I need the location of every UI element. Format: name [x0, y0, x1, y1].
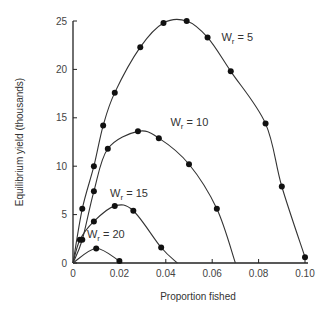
x-tick-label: 0 [70, 268, 76, 279]
data-point [186, 161, 192, 167]
series-label-wr-10: Wr = 10 [170, 116, 208, 131]
data-point [77, 237, 83, 243]
data-point [137, 44, 143, 50]
data-point [158, 245, 164, 251]
y-tick-label: 15 [56, 112, 68, 123]
y-axis-title: Equilibrium yield (thousands) [14, 78, 25, 206]
x-axis-title: Proportion fished [160, 291, 236, 302]
data-point [214, 206, 220, 212]
data-point [156, 135, 162, 141]
data-point [91, 188, 97, 194]
data-point [263, 121, 269, 127]
data-point [205, 34, 211, 40]
y-tick-label: 5 [61, 209, 67, 220]
x-tick-label: 0.08 [249, 268, 269, 279]
curve-wr-5 [73, 19, 305, 263]
x-tick-label: 0.02 [110, 268, 130, 279]
data-point [279, 184, 285, 190]
y-tick-label: 10 [56, 161, 68, 172]
data-point [93, 245, 99, 251]
data-point [116, 258, 122, 264]
data-point [112, 90, 118, 96]
data-point [91, 163, 97, 169]
data-point [79, 206, 85, 212]
data-point [302, 254, 308, 260]
x-tick-label: 0.06 [202, 268, 222, 279]
x-tick-label: 0.10 [295, 268, 315, 279]
series-label-wr-5: Wr = 5 [221, 31, 253, 46]
y-tick-label: 20 [56, 64, 68, 75]
data-point [160, 20, 166, 26]
data-point [91, 218, 97, 224]
data-point [112, 203, 118, 209]
chart-canvas: 051015202500.020.040.060.080.10 Wr = 5Wr… [0, 0, 335, 309]
data-point [184, 18, 190, 24]
data-point [100, 123, 106, 129]
series-labels: Wr = 5Wr = 10Wr = 15Wr = 20 [87, 31, 253, 243]
data-point [135, 128, 141, 134]
data-point [228, 68, 234, 74]
series-label-wr-20: Wr = 20 [87, 228, 125, 243]
x-tick-label: 0.04 [156, 268, 176, 279]
y-tick-label: 25 [56, 16, 68, 27]
data-point [105, 146, 111, 152]
y-tick-label: 0 [61, 258, 67, 269]
series-label-wr-15: Wr = 15 [110, 187, 148, 202]
data-point [130, 208, 136, 214]
